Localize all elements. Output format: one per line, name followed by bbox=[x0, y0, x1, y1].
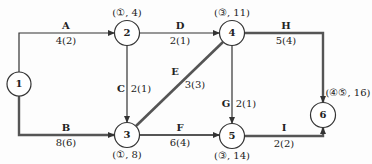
node-2-label: 2 bbox=[124, 28, 131, 38]
edge-A-name: A bbox=[62, 21, 70, 31]
node-1-label: 1 bbox=[16, 79, 23, 89]
edge-H-value: 5(4) bbox=[276, 36, 297, 46]
edge-I-name: I bbox=[282, 123, 287, 133]
edge-H-name: H bbox=[281, 21, 290, 31]
edge-G-value: 2(1) bbox=[236, 99, 257, 109]
network-diagram: 1 2 3 4 5 6 (①, 4) (①, 8) (③, 11) (③, 14… bbox=[0, 0, 372, 164]
edge-G-name: G bbox=[222, 99, 231, 109]
edge-A-value: 4(2) bbox=[56, 36, 77, 46]
edge-I-value: 2(2) bbox=[274, 139, 295, 149]
node-2-annotation: (①, 4) bbox=[112, 8, 142, 18]
node-3-label: 3 bbox=[124, 130, 131, 140]
node-4-annotation: (③, 11) bbox=[214, 8, 250, 18]
node-5-annotation: (③, 14) bbox=[214, 151, 250, 161]
edge-E-value: 3(3) bbox=[185, 80, 206, 90]
node-3-annotation: (①, 8) bbox=[112, 150, 142, 160]
node-6-annotation: (④⑤, 16) bbox=[326, 88, 371, 98]
node-5-label: 5 bbox=[229, 131, 236, 141]
edge-F-name: F bbox=[176, 123, 183, 133]
edge-C-name: C bbox=[117, 84, 125, 94]
node-6-label: 6 bbox=[320, 110, 327, 120]
edge-F-value: 6(4) bbox=[170, 138, 191, 148]
edge-C-value: 2(1) bbox=[131, 84, 152, 94]
node-4-label: 4 bbox=[229, 28, 236, 38]
edge-D-name: D bbox=[176, 21, 185, 31]
edge-E-name: E bbox=[171, 67, 179, 77]
edge-D-value: 2(1) bbox=[170, 36, 191, 46]
edge-B-name: B bbox=[62, 123, 70, 133]
edge-B-value: 8(6) bbox=[56, 138, 77, 148]
